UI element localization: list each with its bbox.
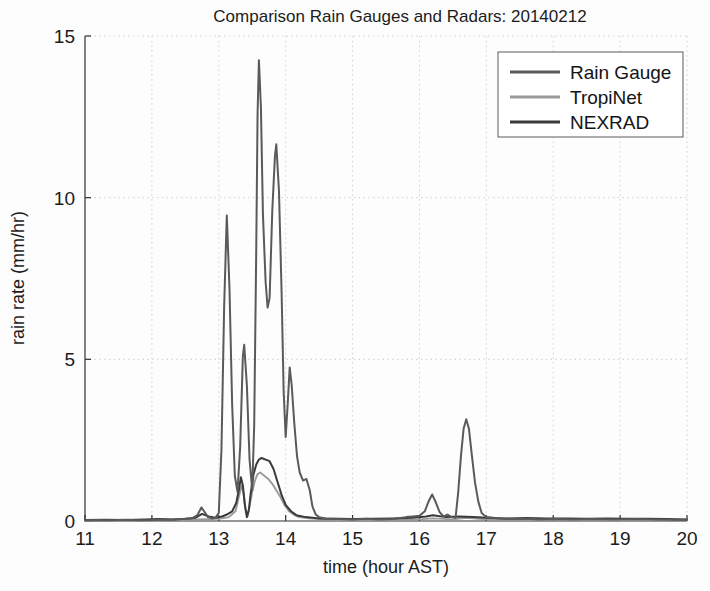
y-tick-label: 10 xyxy=(54,188,75,209)
x-tick-label: 16 xyxy=(409,528,430,549)
x-tick-label: 20 xyxy=(676,528,697,549)
chart-legend: Rain GaugeTropiNetNEXRAD xyxy=(498,52,683,137)
x-axis-title: time (hour AST) xyxy=(323,557,449,577)
y-axis-title: rain rate (mm/hr) xyxy=(8,211,28,345)
legend-label-rain-gauge: Rain Gauge xyxy=(570,62,671,83)
x-tick-label: 19 xyxy=(610,528,631,549)
x-tick-label: 13 xyxy=(208,528,229,549)
x-tick-label: 15 xyxy=(342,528,363,549)
x-tick-label: 17 xyxy=(476,528,497,549)
legend-label-tropinet: TropiNet xyxy=(570,87,643,108)
legend-label-nexrad: NEXRAD xyxy=(570,112,649,133)
y-tick-label: 0 xyxy=(64,511,75,532)
chart-figure: Comparison Rain Gauges and Radars: 20140… xyxy=(0,0,710,591)
y-tick-label: 15 xyxy=(54,26,75,47)
x-tick-label: 14 xyxy=(275,528,297,549)
x-tick-label: 18 xyxy=(543,528,564,549)
x-tick-label: 12 xyxy=(141,528,162,549)
chart-canvas: Comparison Rain Gauges and Radars: 20140… xyxy=(0,0,710,591)
x-tick-label: 11 xyxy=(75,528,95,549)
chart-title: Comparison Rain Gauges and Radars: 20140… xyxy=(213,7,586,26)
y-tick-label: 5 xyxy=(64,349,75,370)
